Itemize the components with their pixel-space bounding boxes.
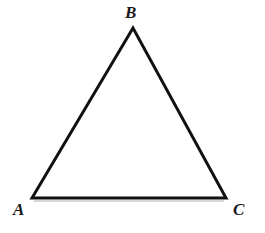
triangle-diagram-canvas [0,0,265,233]
vertex-label-a: A [13,201,24,218]
vertex-label-c: C [233,201,244,218]
triangle-figure: A B C [0,0,265,233]
vertex-label-b: B [125,4,136,21]
